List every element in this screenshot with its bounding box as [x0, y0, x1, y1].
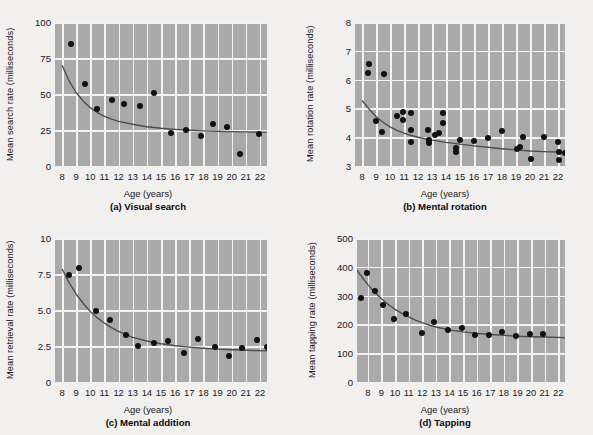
data-point — [472, 332, 478, 338]
x-axis-tick-label: 10 — [390, 387, 400, 398]
panel-tapping: Mean tapping rate (milliseconds)01002003… — [297, 218, 593, 435]
data-point — [165, 338, 171, 344]
data-point — [151, 90, 157, 96]
x-axis-tick-label: 18 — [499, 387, 509, 398]
data-point — [226, 353, 232, 359]
x-axis-tick-label: 16 — [170, 171, 180, 182]
plot-area — [357, 238, 565, 382]
panel-visual-search: Mean search rate (milliseconds)025507510… — [0, 2, 296, 219]
data-point — [198, 133, 204, 139]
data-point — [540, 331, 546, 337]
x-axis-tick-label: 8 — [59, 387, 64, 398]
x-axis-tick-label: 11 — [399, 171, 409, 182]
y-axis-tick-label: 500 — [323, 233, 353, 244]
x-axis-label: Age (years) — [297, 404, 593, 415]
x-axis-tick-label: 13 — [128, 387, 138, 398]
data-point — [93, 308, 99, 314]
data-point — [400, 117, 406, 123]
data-point — [419, 330, 425, 336]
y-axis-tick-label: 50 — [21, 89, 51, 100]
x-axis-tick-label: 21 — [241, 387, 251, 398]
grid-line-vertical — [436, 238, 438, 382]
data-point — [151, 340, 157, 346]
data-point — [366, 61, 372, 67]
panel-caption: (b) Mental rotation — [297, 201, 593, 212]
data-point — [358, 295, 364, 301]
data-point — [555, 139, 561, 145]
grid-line-horizontal — [355, 22, 565, 24]
x-axis-tick-label: 20 — [526, 387, 536, 398]
y-axis-tick-label: 4 — [321, 132, 351, 143]
y-axis-tick-label: 0 — [323, 377, 353, 388]
y-axis-tick-label: 7.5 — [21, 269, 51, 280]
y-axis-tick-label: 75 — [21, 53, 51, 64]
y-axis-label: Mean rotation rate (milliseconds) — [303, 22, 317, 166]
y-axis-tick-label: 2.5 — [21, 341, 51, 352]
x-axis-tick-label: 14 — [142, 171, 152, 182]
grid-line-vertical — [488, 22, 490, 166]
data-point — [408, 110, 414, 116]
figure-container: Mean search rate (milliseconds)025507510… — [0, 0, 593, 435]
y-axis-tick-label: 6 — [321, 74, 351, 85]
x-axis-tick-label: 22 — [255, 171, 265, 182]
x-axis-tick-label: 9 — [74, 387, 79, 398]
data-point — [135, 343, 141, 349]
x-axis-tick-label: 10 — [85, 171, 95, 182]
grid-line-horizontal — [357, 353, 565, 355]
x-axis-tick-label: 8 — [365, 387, 370, 398]
y-axis-label: Mean retrieval rate (milliseconds) — [3, 238, 17, 382]
y-axis-tick-label: 8 — [321, 17, 351, 28]
x-axis-label: Age (years) — [0, 404, 296, 415]
grid-line-vertical — [381, 238, 383, 382]
x-axis-tick-label: 17 — [483, 171, 493, 182]
grid-line-horizontal — [55, 22, 267, 24]
y-axis-tick-label: 7 — [321, 45, 351, 56]
grid-line-horizontal — [55, 130, 267, 132]
grid-line-vertical — [477, 238, 479, 382]
grid-line-vertical — [474, 22, 476, 166]
data-point — [94, 106, 100, 112]
data-point — [381, 71, 387, 77]
x-axis-tick-label: 13 — [128, 171, 138, 182]
data-point — [181, 350, 187, 356]
x-axis-tick-label: 16 — [170, 387, 180, 398]
x-axis-label: Age (years) — [297, 188, 593, 199]
grid-line-vertical — [463, 238, 465, 382]
data-point — [408, 127, 414, 133]
x-axis-tick-label: 19 — [512, 387, 522, 398]
data-point — [82, 81, 88, 87]
data-point — [365, 70, 371, 76]
panel-caption: (d) Tapping — [297, 417, 593, 428]
data-point — [68, 41, 74, 47]
x-axis-tick-label: 22 — [553, 387, 563, 398]
x-axis-tick-label: 8 — [359, 171, 364, 182]
y-axis-tick-label: 300 — [323, 290, 353, 301]
grid-line-vertical — [460, 22, 462, 166]
data-point — [527, 331, 533, 337]
y-axis-tick-label: 5 — [321, 103, 351, 114]
x-axis-tick-label: 12 — [113, 387, 123, 398]
data-point — [373, 118, 379, 124]
data-point — [520, 134, 526, 140]
plot-area — [55, 22, 267, 166]
x-axis-tick-label: 17 — [184, 387, 194, 398]
grid-line-horizontal — [355, 108, 565, 110]
x-axis-tick-label: 21 — [241, 171, 251, 182]
x-axis-tick-label: 16 — [469, 171, 479, 182]
grid-line-vertical — [418, 22, 420, 166]
y-axis-tick-label: 200 — [323, 319, 353, 330]
grid-line-horizontal — [355, 80, 565, 82]
grid-line-vertical — [368, 238, 370, 382]
data-point — [471, 138, 477, 144]
grid-line-vertical — [544, 22, 546, 166]
data-point — [195, 336, 201, 342]
grid-line-vertical — [517, 238, 519, 382]
y-axis-tick-label: 25 — [21, 125, 51, 136]
data-point — [254, 337, 260, 343]
grid-line-horizontal — [355, 51, 565, 53]
x-axis-tick-label: 10 — [385, 171, 395, 182]
x-axis-tick-label: 20 — [525, 171, 535, 182]
grid-line-horizontal — [55, 274, 267, 276]
data-point — [364, 270, 370, 276]
grid-line-vertical — [449, 238, 451, 382]
